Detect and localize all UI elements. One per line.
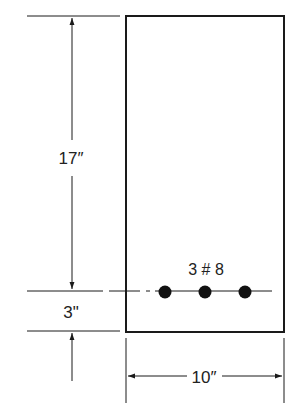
rebar-3 xyxy=(239,286,252,299)
depth-dimension-label: 17″ xyxy=(59,149,84,168)
width-dimension-label: 10″ xyxy=(192,368,217,387)
rebar-label: 3 # 8 xyxy=(188,261,224,278)
cover-dimension-label: 3" xyxy=(63,303,79,322)
rebar-1 xyxy=(159,286,172,299)
rebar-2 xyxy=(199,286,212,299)
beam-section-diagram: 17″ 3" 10″ 3 # 8 xyxy=(0,0,306,420)
beam-outline xyxy=(126,16,284,332)
